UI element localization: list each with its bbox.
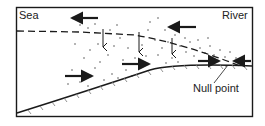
river-label: River — [222, 10, 248, 21]
null-point-label: Null point — [193, 83, 239, 94]
sea-label: Sea — [19, 10, 39, 21]
